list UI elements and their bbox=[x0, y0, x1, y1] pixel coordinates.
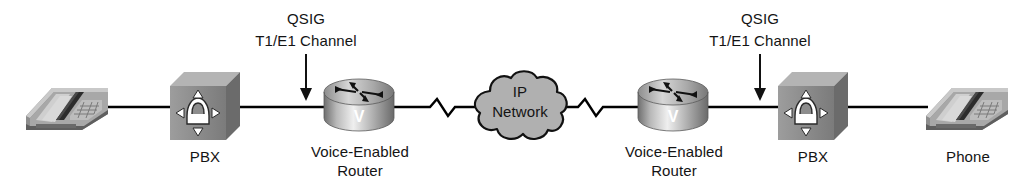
left-phone-icon bbox=[22, 80, 114, 138]
right-router-label: Voice-EnabledRouter bbox=[606, 142, 742, 180]
right-phone-label: Phone bbox=[922, 147, 1014, 166]
left-pbx-icon bbox=[168, 70, 242, 146]
left-pbx-label: PBX bbox=[168, 147, 242, 166]
right-router-icon: V bbox=[636, 78, 710, 136]
ip-network-label: IPNetwork bbox=[466, 82, 574, 122]
network-diagram: PBX bbox=[0, 0, 1019, 192]
ip-network-label-line2: Network bbox=[492, 103, 548, 120]
left-router-icon: V bbox=[322, 78, 396, 136]
right-router-label-line1: Voice-Enabled bbox=[625, 143, 723, 160]
left-qsig-annotation-text: QSIGT1/E1 Channel bbox=[218, 8, 394, 52]
left-router-label-line1: Voice-Enabled bbox=[311, 143, 409, 160]
left-qsig-line1: QSIG bbox=[287, 10, 325, 27]
router-v-letter-right: V bbox=[668, 108, 679, 125]
right-qsig-line1: QSIG bbox=[741, 10, 779, 27]
right-qsig-line2: T1/E1 Channel bbox=[709, 32, 810, 49]
left-qsig-line2: T1/E1 Channel bbox=[255, 32, 356, 49]
left-router-label-line2: Router bbox=[337, 162, 383, 179]
ip-network-label-line1: IP bbox=[513, 83, 527, 100]
left-router-label: Voice-EnabledRouter bbox=[292, 142, 428, 180]
right-qsig-annotation-text: QSIGT1/E1 Channel bbox=[672, 8, 848, 52]
right-pbx-icon bbox=[776, 70, 850, 146]
right-qsig-down-arrow-icon bbox=[750, 54, 770, 102]
router-v-letter-left: V bbox=[354, 108, 365, 125]
right-phone-icon bbox=[922, 80, 1014, 138]
left-qsig-down-arrow-icon bbox=[296, 54, 316, 102]
right-pbx-label: PBX bbox=[776, 147, 850, 166]
right-router-label-line2: Router bbox=[651, 162, 697, 179]
